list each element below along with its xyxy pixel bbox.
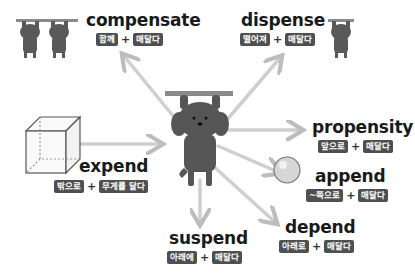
- root-badge: 매달다: [324, 240, 354, 253]
- prefix-badge: 밖으로: [54, 180, 84, 193]
- word-dispense: dispense: [241, 12, 325, 29]
- plus-sign: +: [273, 34, 282, 45]
- plus-sign: +: [351, 141, 360, 152]
- morph-dispense: 떨어져 + 매달다: [240, 33, 315, 46]
- word-depend: depend: [285, 219, 355, 236]
- center-hanging-dog-icon: [165, 91, 233, 186]
- morph-depend: 아래로 + 매달다: [279, 240, 354, 253]
- plus-sign: +: [312, 241, 321, 252]
- root-badge: 매달다: [285, 33, 315, 46]
- plus-sign: +: [200, 252, 209, 263]
- arrow-compensate: [124, 56, 178, 122]
- arrow-depend: [212, 165, 275, 222]
- prefix-badge: 아래에: [167, 251, 197, 264]
- prefix-badge: 떨어져: [240, 33, 270, 46]
- root-badge: 매달다: [363, 140, 393, 153]
- root-badge: 무게를 달다: [99, 180, 148, 193]
- prefix-badge: ~쪽으로: [306, 189, 343, 202]
- plus-sign: +: [121, 34, 130, 45]
- word-append: append: [315, 168, 385, 185]
- word-expend: expend: [79, 158, 148, 175]
- hanging-dog-icon-dispense: [328, 19, 354, 58]
- root-badge: 매달다: [358, 189, 388, 202]
- morph-propensity: 앞으로 + 매달다: [318, 140, 393, 153]
- plus-sign: +: [87, 181, 96, 192]
- prefix-badge: 함께: [96, 33, 118, 46]
- sphere-icon: [274, 157, 300, 183]
- arrow-dispense: [225, 58, 280, 122]
- morph-suspend: 아래에 + 매달다: [167, 251, 242, 264]
- two-hanging-dogs-icon: [16, 19, 78, 58]
- word-suspend: suspend: [169, 230, 248, 247]
- root-badge: 매달다: [212, 251, 242, 264]
- cube-icon: [26, 117, 80, 173]
- morph-expend: 밖으로 + 무게를 달다: [54, 180, 148, 193]
- morph-compensate: 함께 + 매달다: [96, 33, 163, 46]
- prefix-badge: 아래로: [279, 240, 309, 253]
- word-compensate: compensate: [86, 12, 201, 29]
- plus-sign: +: [346, 190, 355, 201]
- morph-append: ~쪽으로 + 매달다: [306, 189, 388, 202]
- word-propensity: propensity: [312, 119, 413, 136]
- prefix-badge: 앞으로: [318, 140, 348, 153]
- arrow-append: [218, 146, 278, 172]
- root-badge: 매달다: [133, 33, 163, 46]
